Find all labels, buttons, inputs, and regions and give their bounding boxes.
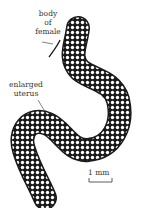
worm-illustration [0, 0, 143, 208]
scale-bar-label: 1 mm [88, 168, 109, 177]
body-of-female-tail [49, 40, 60, 57]
label-line: of [30, 18, 66, 27]
label-enlarged-uterus: enlarged uterus [4, 80, 48, 98]
label-body-of-female: body of female [30, 9, 66, 36]
label-line: uterus [4, 89, 48, 98]
body-of-female-leader [42, 42, 53, 44]
label-line: body [30, 9, 66, 18]
scale-bar [89, 178, 112, 182]
label-line: enlarged [4, 80, 48, 89]
label-line: female [30, 27, 66, 36]
